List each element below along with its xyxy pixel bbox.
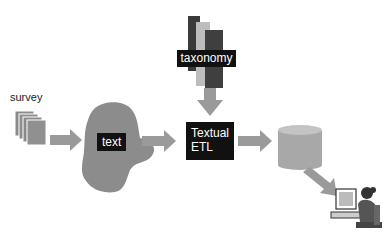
database-icon <box>278 125 322 170</box>
diagram-canvas <box>0 0 385 240</box>
arrow-survey-to-text <box>50 129 82 151</box>
taxonomy-label: taxonomy <box>177 50 236 67</box>
arrow-taxonomy-to-etl <box>197 88 223 116</box>
textual-etl-label-line1: Textual <box>191 126 234 140</box>
text-label: text <box>97 133 126 151</box>
arrow-database-to-user <box>303 167 337 196</box>
textual-etl-box: Textual ETL <box>186 122 234 160</box>
user-at-computer-icon <box>331 187 382 228</box>
survey-label: survey <box>10 91 42 103</box>
textual-etl-label-line2: ETL <box>191 140 234 154</box>
survey-documents-icon <box>15 111 46 145</box>
arrow-etl-to-database <box>238 130 272 152</box>
